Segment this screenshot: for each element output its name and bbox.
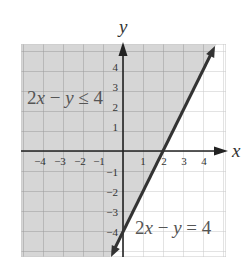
svg-text:−1: −1 [106, 166, 118, 178]
svg-text:4: 4 [201, 155, 207, 167]
svg-text:−4: −4 [106, 226, 118, 238]
svg-text:2: 2 [113, 101, 119, 113]
svg-text:4: 4 [113, 61, 119, 73]
svg-text:1: 1 [140, 155, 146, 167]
inequality-label: 2x − y ≤ 4 [27, 87, 104, 108]
svg-text:−2: −2 [106, 186, 118, 198]
svg-text:−2: −2 [74, 155, 86, 167]
inequality-graph: y x −4 −3 −2 −1 1 2 3 4 4 3 2 1 −1 −2 −3… [0, 0, 245, 273]
svg-text:−3: −3 [106, 206, 118, 218]
svg-text:2: 2 [161, 155, 167, 167]
equation-label: 2x − y = 4 [135, 217, 212, 238]
svg-text:−3: −3 [54, 155, 66, 167]
svg-text:1: 1 [113, 121, 119, 133]
x-axis-label: x [231, 140, 241, 161]
svg-text:−4: −4 [34, 155, 46, 167]
svg-text:3: 3 [181, 155, 187, 167]
y-axis-label: y [117, 16, 128, 37]
svg-text:3: 3 [113, 81, 119, 93]
svg-text:−1: −1 [93, 155, 105, 167]
